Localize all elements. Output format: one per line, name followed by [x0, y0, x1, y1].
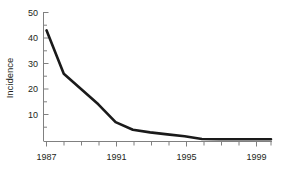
x-tick-label-1999: 1999 — [246, 152, 266, 162]
y-tick-label-50: 50 — [28, 8, 38, 18]
x-tick-label-1991: 1991 — [106, 152, 126, 162]
y-minor-ticks — [44, 25, 48, 127]
x-tick-label-1995: 1995 — [176, 152, 196, 162]
y-major-ticks — [44, 13, 49, 115]
y-tick-label-30: 30 — [28, 59, 38, 69]
y-tick-label-40: 40 — [28, 33, 38, 43]
x-tick-label-1987: 1987 — [36, 152, 56, 162]
x-minor-ticks — [64, 142, 271, 146]
y-tick-label-10: 10 — [28, 110, 38, 120]
incidence-line-chart: Incidence 50 40 30 20 10 — [0, 0, 284, 169]
y-axis-title: Incidence — [4, 58, 15, 99]
incidence-series-line — [47, 30, 272, 139]
y-tick-label-20: 20 — [28, 84, 38, 94]
chart-canvas: Incidence 50 40 30 20 10 — [0, 0, 284, 169]
